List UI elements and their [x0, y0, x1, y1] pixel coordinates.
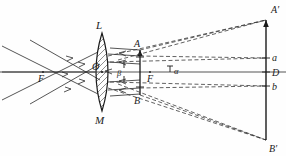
- lens-center-label: O: [92, 61, 99, 72]
- lens-bottom-label: M: [94, 114, 105, 126]
- arrowhead-incoming-4: [78, 62, 85, 67]
- object-top-label: A: [133, 38, 141, 49]
- focus-right-group: α: [149, 66, 179, 76]
- dashed-ray-A-to-Aprime: [140, 20, 266, 50]
- optics-diagram-canvas: β A B α: [0, 0, 286, 156]
- image-arrow-group: A′ a D b B′: [262, 4, 280, 154]
- incoming-ray-4: [30, 64, 100, 104]
- dashed-ray-to-a-lower: [140, 56, 266, 58]
- dashed-ray-to-b-lower: [140, 86, 266, 88]
- image-arrowhead: [263, 20, 269, 27]
- focus-left-label: F: [37, 73, 45, 84]
- focus-right-label: F: [146, 73, 154, 84]
- screen-label-a: a: [272, 52, 277, 63]
- dashed-ray-lens-to-Bprime: [108, 88, 266, 140]
- dashed-construction-rays-group: [108, 20, 266, 140]
- incoming-ray-2: [2, 46, 98, 94]
- image-top-label: A′: [270, 4, 280, 15]
- angle-alpha-label: α: [174, 66, 179, 76]
- dashed-ray-2-to-Aprime: [118, 20, 266, 60]
- object-arrowhead: [137, 50, 142, 56]
- angle-beta-label: β: [116, 68, 122, 78]
- image-bottom-label: B′: [269, 143, 278, 154]
- screen-label-D: D: [271, 67, 280, 78]
- dashed-ray-B-to-Bprime: [140, 95, 266, 140]
- arrowhead-refracted-2: [119, 60, 126, 65]
- arrowhead-incoming-2: [66, 56, 73, 61]
- arrowhead-incoming-3: [64, 87, 71, 92]
- dashed-ray-to-a-upper: [110, 58, 266, 62]
- arrowhead-incoming-1: [62, 72, 68, 77]
- screen-label-b: b: [272, 81, 277, 92]
- arrowhead-incoming-5: [78, 79, 85, 84]
- lens-top-label: L: [95, 19, 102, 31]
- optics-diagram-figure: β A B α: [0, 0, 286, 156]
- lens-center-dot: [101, 71, 103, 73]
- arrowhead-refracted-3: [119, 79, 126, 84]
- incoming-rays-group: [2, 40, 100, 104]
- dashed-ray-to-b-upper: [110, 82, 266, 86]
